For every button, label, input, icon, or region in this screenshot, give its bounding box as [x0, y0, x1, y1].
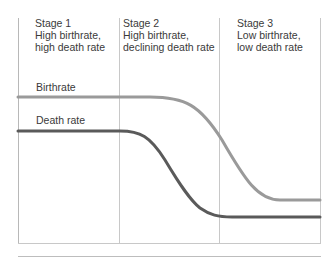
stage-2-label: Stage 2 High birthrate, declining death … [123, 17, 215, 53]
death-rate-curve [18, 131, 320, 217]
birthrate-curve [18, 97, 320, 200]
stage-1-line2: high death rate [35, 41, 105, 53]
stage-2-line2: declining death rate [123, 41, 215, 53]
stage-2-line1: High birthrate, [123, 29, 215, 41]
stage-3-line1: Low birthrate, [237, 29, 303, 41]
death-rate-label: Death rate [36, 114, 85, 126]
stage-3-label: Stage 3 Low birthrate, low death rate [237, 17, 303, 53]
stage-1-name: Stage 1 [35, 17, 105, 29]
stage-3-line2: low death rate [237, 41, 303, 53]
stage-3-name: Stage 3 [237, 17, 303, 29]
stage-1-label: Stage 1 High birthrate, high death rate [35, 17, 105, 53]
birthrate-label: Birthrate [36, 81, 76, 93]
stage-2-name: Stage 2 [123, 17, 215, 29]
stage-1-line1: High birthrate, [35, 29, 105, 41]
